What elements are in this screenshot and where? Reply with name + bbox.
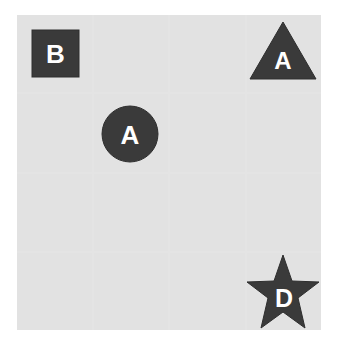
pieces-layer: B A A D	[0, 0, 337, 349]
piece-circle-a: A	[102, 106, 158, 162]
piece-square-b: B	[32, 30, 79, 77]
piece-label: A	[121, 120, 140, 150]
piece-star-d: D	[247, 255, 319, 328]
piece-label: A	[274, 47, 291, 74]
piece-label: B	[46, 39, 65, 69]
piece-label: D	[275, 284, 293, 312]
piece-triangle-a: A	[250, 22, 316, 79]
